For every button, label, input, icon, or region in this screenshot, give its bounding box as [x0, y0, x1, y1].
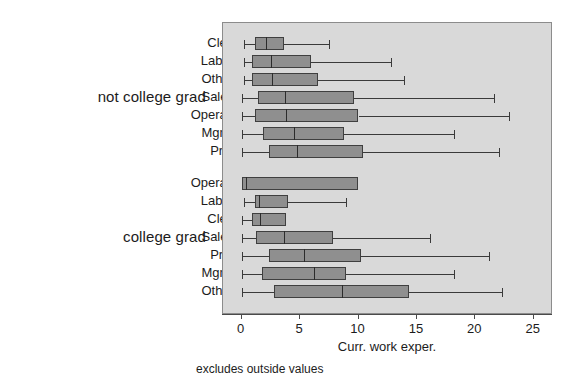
category-label-Labor: Labor [114, 54, 234, 68]
x-tick-label-20: 20 [467, 321, 481, 336]
whisker-low-line [242, 220, 253, 221]
box-iqr [255, 109, 359, 122]
whisker-low-line [244, 202, 255, 203]
whisker-high-cap [404, 76, 405, 85]
whisker-high-cap [509, 112, 510, 121]
median-line [284, 231, 285, 244]
whisker-low-cap [242, 288, 243, 297]
category-label-Sales: Sales [114, 90, 234, 104]
category-axis-labels: Cler.LaborOtherSalesOperat.MgmtProfOpera… [100, 0, 234, 391]
whisker-high-cap [430, 234, 431, 243]
box-iqr [269, 249, 361, 262]
whisker-low-line [242, 238, 256, 239]
whisker-high-line [284, 44, 330, 45]
x-axis: 0510152025 [222, 314, 552, 315]
whisker-low-line [242, 116, 255, 117]
box-iqr [263, 127, 345, 140]
whisker-high-line [354, 98, 494, 99]
category-label-Operat: Operat. [114, 176, 234, 190]
category-label-Operat: Operat. [114, 108, 234, 122]
x-axis-title: Curr. work exper. [222, 339, 552, 354]
whisker-low-cap [242, 148, 243, 157]
box-iqr [258, 91, 354, 104]
box-iqr [242, 177, 359, 190]
median-line [271, 55, 272, 68]
category-label-Other: Other [114, 72, 234, 86]
whisker-high-line [288, 202, 345, 203]
whisker-high-line [311, 62, 392, 63]
whisker-high-line [359, 116, 510, 117]
category-label-Mgmt: Mgmt [114, 266, 234, 280]
median-line [304, 249, 305, 262]
median-line [286, 109, 287, 122]
x-tick-5 [299, 314, 300, 319]
whisker-low-line [242, 98, 258, 99]
whisker-high-cap [346, 198, 347, 207]
whisker-low-cap [242, 216, 243, 225]
whisker-low-cap [242, 94, 243, 103]
median-line [285, 91, 286, 104]
x-tick-label-10: 10 [350, 321, 364, 336]
whisker-low-line [242, 292, 275, 293]
whisker-low-line [242, 256, 269, 257]
category-label-Prof: Prof [114, 248, 234, 262]
whisker-low-line [242, 274, 262, 275]
whisker-low-cap [242, 112, 243, 121]
median-line [272, 73, 273, 86]
whisker-high-line [361, 256, 489, 257]
category-label-Labor: Labor [114, 194, 234, 208]
median-line [342, 285, 343, 298]
category-label-Sales: Sales [114, 230, 234, 244]
category-label-Other: Other [114, 284, 234, 298]
category-label-Prof: Prof [114, 144, 234, 158]
x-tick-label-5: 5 [295, 321, 302, 336]
whisker-low-cap [244, 76, 245, 85]
whisker-high-cap [499, 148, 500, 157]
whisker-low-cap [244, 58, 245, 67]
whisker-low-cap [242, 270, 243, 279]
x-tick-20 [474, 314, 475, 319]
x-tick-25 [533, 314, 534, 319]
median-line [246, 177, 247, 190]
box-plot-figure: not college grad college grad Cler.Labor… [0, 0, 574, 391]
box-iqr [252, 73, 317, 86]
whisker-high-cap [494, 94, 495, 103]
x-tick-10 [358, 314, 359, 319]
whisker-high-line [333, 238, 430, 239]
category-label-Mgmt: Mgmt [114, 126, 234, 140]
median-line [294, 127, 295, 140]
box-iqr [255, 37, 284, 50]
box-plots-container [223, 23, 551, 313]
whisker-low-cap [244, 198, 245, 207]
x-tick-0 [241, 314, 242, 319]
plot-region [222, 22, 552, 314]
whisker-high-cap [502, 288, 503, 297]
x-tick-15 [416, 314, 417, 319]
box-iqr [252, 213, 286, 226]
box-iqr [252, 55, 310, 68]
whisker-high-cap [329, 40, 330, 49]
whisker-high-cap [454, 130, 455, 139]
chart-note: excludes outside values [196, 362, 323, 376]
whisker-high-cap [489, 252, 490, 261]
median-line [297, 145, 298, 158]
whisker-low-cap [242, 252, 243, 261]
whisker-high-line [344, 134, 454, 135]
whisker-low-cap [244, 40, 245, 49]
whisker-high-cap [391, 58, 392, 67]
median-line [259, 195, 260, 208]
whisker-low-line [244, 80, 252, 81]
whisker-high-line [318, 80, 404, 81]
whisker-low-line [242, 152, 269, 153]
whisker-high-line [363, 152, 498, 153]
whisker-low-cap [242, 234, 243, 243]
whisker-low-line [244, 62, 252, 63]
box-iqr [269, 145, 364, 158]
whisker-low-cap [242, 130, 243, 139]
whisker-low-line [242, 134, 263, 135]
median-line [314, 267, 315, 280]
category-label-Cler: Cler. [114, 36, 234, 50]
box-iqr [256, 231, 333, 244]
box-iqr [262, 267, 346, 280]
whisker-high-cap [454, 270, 455, 279]
